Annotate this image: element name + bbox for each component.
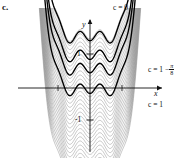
pi-over-8-fraction: π8 — [169, 63, 174, 77]
curve-label-c1-minus-pi-8-prefix: c = 1 − — [148, 65, 169, 74]
curve-family-plot — [0, 0, 182, 160]
curve-label-c0: c = 0 — [113, 4, 128, 12]
curve-label-c1: c = 1 — [148, 101, 163, 109]
y-axis-label: y — [82, 21, 86, 29]
y-tick-label-neg1: -1 — [75, 116, 81, 124]
fraction-denominator: 8 — [169, 69, 174, 76]
y-tick-label-1: 1 — [77, 50, 81, 58]
curve-label-c1-minus-pi-8: c = 1 −π8 — [148, 63, 174, 77]
x-axis-label: x — [154, 90, 158, 98]
part-label: c. — [2, 3, 8, 12]
axes-layer — [18, 19, 162, 152]
figure-panel-c: c. y x 1 -1 c = 0 c = 1 −π8 c = 1 — [0, 0, 182, 160]
y-axis-arrow — [88, 19, 93, 24]
